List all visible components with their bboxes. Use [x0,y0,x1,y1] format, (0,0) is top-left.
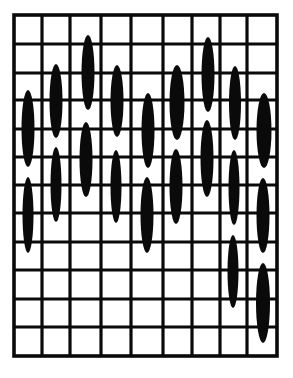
stitch-ellipse [111,150,122,223]
stitch-ellipse [170,65,185,140]
stitch-ellipse [229,66,241,140]
stitch-ellipse [170,149,183,224]
stitch-ellipse [229,150,240,225]
stitch-ellipse [141,177,154,253]
stitch-ellipse [257,178,270,253]
stitch-ellipse [256,263,270,343]
stitch-ellipse [80,122,93,197]
stitch-ellipse [228,235,239,308]
stitch-ellipse [257,93,272,168]
stitch-ellipse [201,120,214,197]
stitch-ellipse [23,177,34,253]
stitch-ellipse [50,64,63,138]
stitch-ellipse [82,35,95,110]
stitch-ellipse [22,90,35,167]
stitch-pattern-diagram [0,0,293,378]
stitch-ellipse [202,37,215,112]
stitch-ellipse [51,147,62,222]
stitch-ellipse [111,65,124,137]
stitch-ellipse [142,93,155,168]
